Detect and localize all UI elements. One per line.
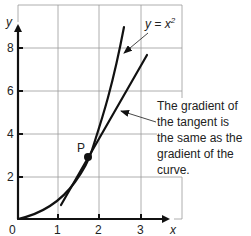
point-p-label: P (77, 141, 85, 155)
tangent-diagram: 0 1 2 3 8 6 4 2 x y P y = x2 The gradien… (0, 0, 251, 236)
annotation-line-4: gradient of the (157, 146, 251, 162)
ticks (18, 48, 141, 219)
y-tick-4: 4 (7, 127, 14, 141)
y-axis-label: y (5, 15, 13, 29)
tangent-line (61, 55, 147, 205)
annotation-line-5: curve. (157, 162, 251, 178)
x-tick-1: 1 (54, 223, 61, 236)
annotation-line-1: The gradient of (157, 98, 251, 114)
curve-label-arrow (124, 33, 148, 53)
y-tick-2: 2 (7, 170, 14, 184)
annotation-line-2: the tangent is (157, 114, 251, 130)
curve-label: y = x2 (144, 16, 176, 31)
y-tick-8: 8 (7, 41, 14, 55)
axes (18, 26, 168, 219)
point-p (84, 153, 92, 161)
annotation-arrow (121, 111, 156, 122)
x-tick-0: 0 (9, 223, 16, 236)
tick-labels: 0 1 2 3 8 6 4 2 (7, 41, 144, 236)
gradient-annotation: The gradient of the tangent is the same … (157, 98, 251, 178)
x-axis-label: x (169, 223, 177, 236)
y-tick-6: 6 (7, 84, 14, 98)
x-tick-3: 3 (137, 223, 144, 236)
x-tick-2: 2 (95, 223, 102, 236)
annotation-line-3: the same as the (157, 130, 251, 146)
